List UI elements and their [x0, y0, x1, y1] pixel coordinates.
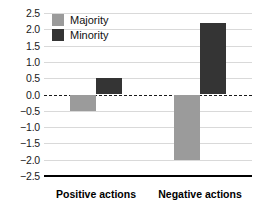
x-axis: Positive actionsNegative actions: [44, 188, 252, 204]
y-axis-tick-label: 2.0: [0, 23, 40, 35]
x-axis-line: [44, 175, 252, 177]
y-axis-tick-label: −1.5: [0, 137, 40, 149]
bar-minority-positive-actions: [96, 78, 122, 94]
legend-item-majority: Majority: [52, 14, 109, 26]
y-axis-tick-label: 0.0: [0, 89, 40, 101]
y-axis-tick-label: 1.5: [0, 40, 40, 52]
legend-label: Majority: [70, 14, 109, 26]
gridline: [44, 143, 252, 144]
y-axis-tick-label: 2.5: [0, 7, 40, 19]
y-axis: 2.52.01.51.00.50.0−0.5−1.0−1.5−2.0−2.5: [0, 13, 40, 176]
bar-minority-negative-actions: [200, 23, 226, 95]
x-axis-tick-label: Positive actions: [56, 188, 136, 200]
x-axis-tick-label: Negative actions: [158, 188, 241, 200]
legend-swatch-icon: [52, 29, 64, 41]
bar-chart: 2.52.01.51.00.50.0−0.5−1.0−1.5−2.0−2.5 M…: [0, 0, 260, 213]
gridline: [44, 127, 252, 128]
gridline: [44, 160, 252, 161]
legend-item-minority: Minority: [52, 29, 109, 41]
gridline: [44, 111, 252, 112]
y-axis-tick-label: −0.5: [0, 105, 40, 117]
legend: MajorityMinority: [52, 14, 109, 41]
y-axis-tick-label: −2.5: [0, 170, 40, 182]
y-axis-tick-label: −2.0: [0, 154, 40, 166]
y-axis-tick-label: 0.5: [0, 72, 40, 84]
legend-label: Minority: [70, 29, 109, 41]
bar-majority-positive-actions: [70, 95, 96, 111]
y-axis-tick-label: 1.0: [0, 56, 40, 68]
y-axis-tick-label: −1.0: [0, 121, 40, 133]
bar-majority-negative-actions: [174, 95, 200, 160]
legend-swatch-icon: [52, 14, 64, 26]
